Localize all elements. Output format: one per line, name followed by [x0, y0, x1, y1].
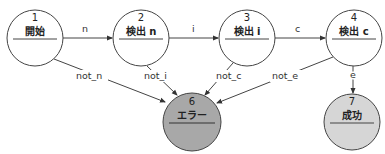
edge-2-6: not_i	[142, 66, 177, 95]
node-number: 6	[189, 96, 195, 107]
node-label: 開始	[25, 25, 45, 37]
edge-label-not-i: not_i	[144, 70, 167, 81]
edge-label-e: e	[350, 69, 356, 80]
edge-3-4: c	[275, 23, 325, 38]
node-4: 4 検出 c	[326, 10, 382, 66]
node-number: 2	[138, 12, 144, 23]
edge-1-2: n	[63, 23, 112, 38]
edge-2-3: i	[169, 23, 218, 38]
edge-label-not-n: not_n	[76, 70, 102, 81]
node-number: 4	[351, 12, 357, 23]
edge-label-n: n	[82, 23, 88, 34]
node-label: 検出 i	[234, 25, 261, 37]
edge-4-7: e e	[350, 66, 356, 93]
node-2: 2 検出 n	[113, 10, 169, 66]
edge-3-6: not_c	[205, 63, 246, 95]
edge-label-c: c	[295, 23, 300, 34]
edge-label-not-e: not_e	[272, 70, 298, 81]
node-label: エラー	[177, 110, 207, 121]
node-7-success: 7 成功	[324, 94, 380, 150]
node-label: 成功	[342, 109, 362, 121]
state-diagram: n i c e e not_n not_i	[0, 0, 385, 154]
node-number: 3	[244, 12, 250, 23]
node-3: 3 検出 i	[219, 10, 275, 66]
node-1: 1 開始	[7, 10, 63, 66]
node-6-error: 6 エラー	[163, 93, 221, 151]
node-number: 7	[349, 96, 355, 107]
edge-label-i: i	[192, 23, 195, 34]
edge-label-not-c: not_c	[216, 70, 242, 81]
node-label: 検出 c	[339, 25, 368, 37]
node-label: 検出 n	[126, 25, 157, 37]
node-number: 1	[32, 12, 38, 23]
edges: n i c e e not_n not_i	[54, 23, 356, 103]
